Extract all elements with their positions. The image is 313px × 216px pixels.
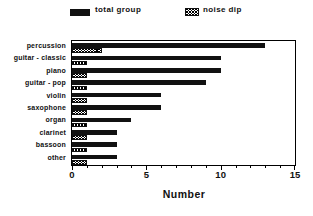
bar-chart: total group noise dip percussionguitar -…	[0, 0, 313, 216]
category-label-guitar-pop: guitar - pop	[25, 78, 66, 87]
x-axis-tick	[206, 165, 207, 168]
x-axis-tick	[236, 165, 237, 168]
category-label-percussion: percussion	[27, 41, 66, 50]
x-tick-label-0: 0	[69, 170, 74, 180]
x-axis-title: Number	[163, 188, 206, 200]
bar-total-group	[72, 142, 117, 147]
x-tick-label-15: 15	[290, 170, 301, 180]
category-label-other: other	[48, 153, 67, 162]
bar-noise-dip	[72, 73, 87, 78]
x-axis-tick	[131, 165, 132, 168]
bar-noise-dip	[72, 123, 87, 128]
bar-total-group	[72, 155, 117, 160]
x-tick-label-5: 5	[144, 170, 149, 180]
category-label-organ: organ	[46, 115, 66, 124]
bar-noise-dip	[72, 86, 87, 91]
bar-noise-dip	[72, 48, 102, 53]
bar-total-group	[72, 56, 221, 61]
bar-total-group	[72, 130, 117, 135]
plot-area	[71, 40, 296, 166]
bar-noise-dip	[72, 148, 87, 153]
category-label-violin: violin	[47, 91, 66, 100]
legend-swatch-total-group	[70, 9, 90, 16]
bar-total-group	[72, 93, 161, 98]
x-axis-tick	[161, 165, 162, 168]
bar-noise-dip	[72, 61, 87, 66]
bar-noise-dip	[72, 98, 87, 103]
category-label-bassoon: bassoon	[36, 140, 66, 149]
bar-total-group	[72, 43, 265, 48]
x-axis-tick	[102, 165, 103, 168]
bar-total-group	[72, 68, 221, 73]
legend-swatch-noise-dip	[185, 8, 199, 16]
legend-label-noise-dip: noise dip	[203, 5, 242, 14]
x-axis-tick	[87, 165, 88, 168]
x-axis-tick	[280, 165, 281, 168]
category-label-clarinet: clarinet	[40, 128, 67, 137]
x-axis-tick	[117, 165, 118, 168]
x-tick-label-10: 10	[215, 170, 226, 180]
category-labels: percussionguitar - classicpianoguitar - …	[0, 0, 68, 216]
bar-noise-dip	[72, 160, 87, 165]
category-label-piano: piano	[46, 66, 66, 75]
x-axis-tick	[250, 165, 251, 168]
bar-total-group	[72, 118, 131, 123]
category-label-guitar-classic: guitar - classic	[14, 53, 66, 62]
bar-total-group	[72, 105, 161, 110]
x-axis-tick	[191, 165, 192, 168]
x-axis-tick	[176, 165, 177, 168]
legend-label-total-group: total group	[95, 5, 141, 14]
category-label-saxophone: saxophone	[27, 103, 66, 112]
bar-total-group	[72, 80, 206, 85]
bar-noise-dip	[72, 135, 87, 140]
x-axis-tick	[265, 165, 266, 168]
bar-noise-dip	[72, 110, 87, 115]
